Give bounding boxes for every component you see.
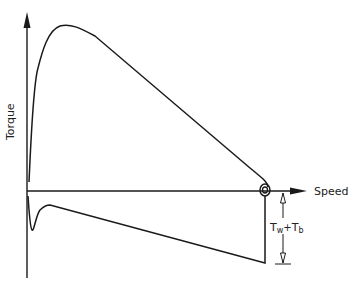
plus-sign: + (283, 222, 291, 233)
open-arrow-up-icon (281, 193, 286, 203)
x-axis-label: Speed (314, 185, 348, 198)
motoring-curve (29, 25, 268, 187)
subscript-b: b (298, 226, 303, 235)
braking-curve (28, 196, 265, 263)
torque-speed-diagram: Torque Speed Tw+Tb (0, 0, 358, 290)
open-arrow-down-icon (281, 253, 286, 263)
arrow-right-icon (290, 188, 307, 195)
arrow-up-icon (24, 12, 31, 28)
loop-symbol (260, 184, 270, 196)
torque-axis (24, 12, 31, 278)
tw-tb-label: Tw+Tb (269, 221, 303, 235)
y-axis-label: Torque (4, 103, 17, 141)
